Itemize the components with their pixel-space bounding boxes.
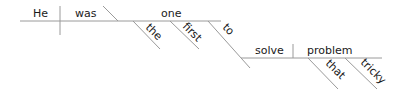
word-modifier-first: first bbox=[180, 20, 205, 45]
word-modifier-the: the bbox=[143, 21, 165, 43]
word-complement: one bbox=[161, 7, 182, 20]
word-infinitive-marker: to bbox=[220, 21, 237, 38]
complement-divider bbox=[103, 6, 118, 21]
sentence-diagram: He was one the first to solve problem th… bbox=[0, 0, 400, 98]
word-infinitive-verb: solve bbox=[255, 44, 284, 57]
word-object-modifier-that: that bbox=[323, 57, 348, 82]
word-object-modifier-tricky: tricky bbox=[358, 56, 389, 87]
word-subject: He bbox=[33, 7, 48, 20]
word-verb: was bbox=[75, 7, 97, 20]
word-object: problem bbox=[307, 44, 353, 57]
